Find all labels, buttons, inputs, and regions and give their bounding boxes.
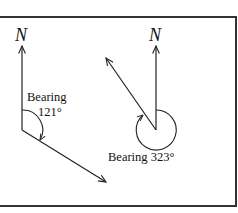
right-bearing-diagram: N Bearing 323° — [106, 25, 176, 164]
north-label-right: N — [148, 25, 162, 45]
bearing-arrow-323 — [106, 58, 156, 130]
frame-border — [0, 17, 236, 206]
bearing-label-left: Bearing — [27, 90, 67, 104]
bearing-diagram: N Bearing 121° N Bearing 323° — [0, 0, 238, 213]
left-bearing-diagram: N Bearing 121° — [14, 25, 106, 182]
north-label-left: N — [14, 25, 28, 45]
bearing-arrow-121 — [22, 130, 106, 182]
bearing-value-left: 121° — [38, 105, 62, 119]
bearing-text-right: Bearing 323° — [108, 150, 174, 164]
